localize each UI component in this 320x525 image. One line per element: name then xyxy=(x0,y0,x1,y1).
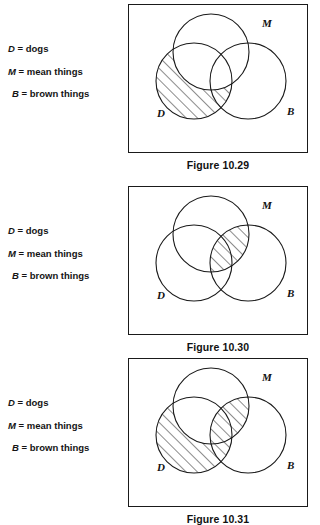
legend-symbol-b: B xyxy=(12,270,19,281)
venn-diagram-box-10-31: D M B xyxy=(128,358,308,507)
legend-row: D = dogs xyxy=(8,44,124,54)
panel-figure-10-31: D = dogs M = mean things B = brown thing… xyxy=(0,354,320,523)
legend-row: M = mean things xyxy=(8,421,124,431)
legend-row: M = mean things xyxy=(8,249,124,259)
legend-equals: = xyxy=(22,270,28,281)
circle-label-d: D xyxy=(156,461,165,473)
legend-symbol-b: B xyxy=(12,88,19,99)
legend-text-d: dogs xyxy=(26,225,49,236)
legend-text-d: dogs xyxy=(26,43,49,54)
legend-text-m: mean things xyxy=(27,420,83,431)
legend-figure-10-29: D = dogs M = mean things B = brown thing… xyxy=(8,44,124,99)
legend-symbol-d: D xyxy=(8,397,15,408)
legend-symbol-m: M xyxy=(8,66,16,77)
legend-equals: = xyxy=(19,248,25,259)
caption-figure-10-30: Figure 10.30 xyxy=(128,341,308,353)
venn-diagram-box-10-30: D M B xyxy=(128,186,308,335)
circle-label-m: M xyxy=(261,199,273,211)
legend-equals: = xyxy=(19,66,25,77)
legend-text-m: mean things xyxy=(27,66,83,77)
legend-text-m: mean things xyxy=(27,248,83,259)
circle-label-b: B xyxy=(286,287,294,299)
legend-symbol-m: M xyxy=(8,248,16,259)
legend-equals: = xyxy=(18,225,24,236)
legend-equals: = xyxy=(22,442,28,453)
legend-symbol-m: M xyxy=(8,420,16,431)
circle-label-d: D xyxy=(156,289,165,301)
caption-figure-10-31: Figure 10.31 xyxy=(128,513,308,525)
venn-diagram-10-30: D M B xyxy=(129,187,307,334)
venn-diagram-10-29: D M B xyxy=(129,5,307,152)
legend-figure-10-31: D = dogs M = mean things B = brown thing… xyxy=(8,398,124,453)
circle-label-b: B xyxy=(286,105,294,117)
legend-row: D = dogs xyxy=(8,398,124,408)
legend-symbol-d: D xyxy=(8,225,15,236)
legend-text-b: brown things xyxy=(30,442,90,453)
circle-label-b: B xyxy=(286,459,294,471)
legend-symbol-b: B xyxy=(12,442,19,453)
legend-row: B = brown things xyxy=(8,89,124,99)
venn-diagram-box-10-29: D M B xyxy=(128,4,308,153)
legend-row: M = mean things xyxy=(8,67,124,77)
circle-label-d: D xyxy=(156,107,165,119)
circle-label-m: M xyxy=(261,371,273,383)
legend-row: B = brown things xyxy=(8,443,124,453)
legend-equals: = xyxy=(19,420,25,431)
legend-equals: = xyxy=(22,88,28,99)
legend-row: B = brown things xyxy=(8,271,124,281)
panel-figure-10-29: D = dogs M = mean things B = brown thing… xyxy=(0,0,320,176)
caption-figure-10-29: Figure 10.29 xyxy=(128,159,308,171)
legend-text-b: brown things xyxy=(30,88,90,99)
panel-figure-10-30: D = dogs M = mean things B = brown thing… xyxy=(0,182,320,358)
legend-equals: = xyxy=(18,397,24,408)
legend-symbol-d: D xyxy=(8,43,15,54)
legend-text-d: dogs xyxy=(26,397,49,408)
legend-text-b: brown things xyxy=(30,270,90,281)
circle-label-m: M xyxy=(261,17,273,29)
venn-diagram-10-31: D M B xyxy=(129,359,307,506)
legend-equals: = xyxy=(18,43,24,54)
legend-row: D = dogs xyxy=(8,226,124,236)
legend-figure-10-30: D = dogs M = mean things B = brown thing… xyxy=(8,226,124,281)
